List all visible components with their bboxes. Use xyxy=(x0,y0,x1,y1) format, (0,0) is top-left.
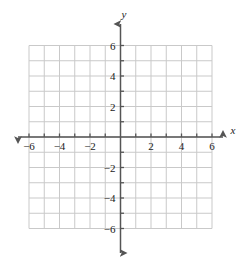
y-tick-label: 6 xyxy=(110,40,116,52)
x-tick-label: −2 xyxy=(84,140,96,152)
x-tick-label: 2 xyxy=(148,140,154,152)
y-tick-label: −2 xyxy=(104,162,116,174)
coordinate-grid-svg: −6−4−2246 642−2−4−6 x y xyxy=(0,0,250,264)
y-tick-label: 4 xyxy=(110,70,116,82)
x-tick-label: −6 xyxy=(23,140,35,152)
x-tick-label: −4 xyxy=(54,140,66,152)
x-tick-labels: −6−4−2246 xyxy=(23,140,215,152)
axis-lines xyxy=(18,24,223,253)
coordinate-plane-figure: −6−4−2246 642−2−4−6 x y xyxy=(0,0,250,264)
y-axis-label: y xyxy=(121,8,127,20)
x-tick-label: 4 xyxy=(179,140,185,152)
y-tick-label: 2 xyxy=(110,101,116,113)
y-tick-label: −4 xyxy=(104,192,116,204)
x-tick-label: 6 xyxy=(209,140,215,152)
x-axis-label: x xyxy=(230,124,236,136)
y-tick-label: −6 xyxy=(104,223,116,235)
